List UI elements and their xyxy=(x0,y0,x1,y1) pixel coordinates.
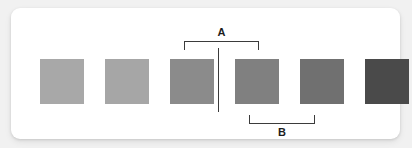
swatch-1 xyxy=(40,59,84,104)
bracket-b xyxy=(249,115,315,124)
grayscale-swatch-strip xyxy=(40,59,390,104)
swatch-5 xyxy=(300,59,344,104)
swatch-3 xyxy=(170,59,214,104)
bracket-b-label: B xyxy=(249,126,315,138)
figure-root: A B xyxy=(0,0,412,148)
swatch-4 xyxy=(235,59,279,104)
swatch-6 xyxy=(365,59,409,104)
divider-line xyxy=(218,48,219,112)
figure-card: A B xyxy=(11,8,400,139)
swatch-2 xyxy=(105,59,149,104)
bracket-a-label: A xyxy=(184,26,259,38)
bracket-a xyxy=(184,41,259,50)
